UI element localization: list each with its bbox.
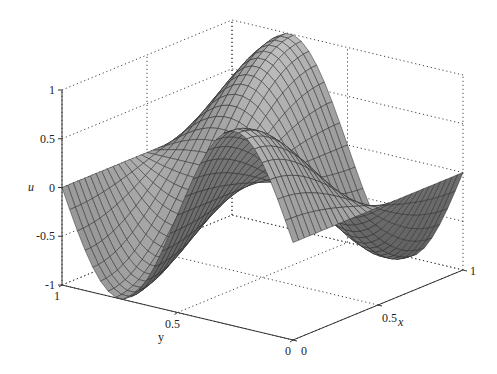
x-tick bbox=[378, 305, 382, 306]
y-tick bbox=[290, 340, 293, 342]
z-tick-label: -0.5 bbox=[36, 229, 55, 243]
z-tick-label: 0 bbox=[49, 181, 55, 195]
z-tick-label: 1 bbox=[49, 83, 55, 97]
y-tick bbox=[175, 313, 178, 315]
y-tick-label: 0 bbox=[285, 344, 291, 358]
floor-gridline-y bbox=[178, 243, 348, 313]
x-tick-label: 0 bbox=[301, 344, 307, 358]
floor-gridline-x bbox=[147, 250, 378, 305]
x-tick-label: 0.5 bbox=[382, 311, 397, 325]
y-tick-label: 0.5 bbox=[165, 317, 180, 331]
x-axis-label: x bbox=[397, 315, 404, 329]
x-tick-label: 1 bbox=[470, 264, 476, 278]
y-tick-label: 1 bbox=[54, 289, 60, 303]
z-axis-label: u bbox=[28, 180, 34, 194]
y-axis-label: y bbox=[158, 330, 164, 344]
z-tick-label: 0.5 bbox=[40, 132, 55, 146]
surface bbox=[62, 33, 463, 299]
surface-plot: u y x -1-0.500.5110.5000.51 bbox=[0, 0, 497, 374]
x-tick bbox=[463, 270, 467, 271]
x-tick bbox=[293, 340, 297, 341]
